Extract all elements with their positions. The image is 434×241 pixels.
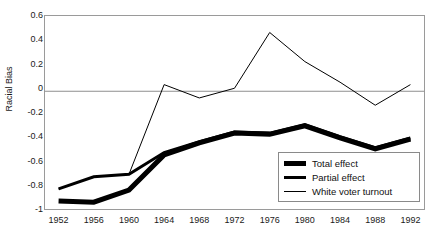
x-tick-label: 1988	[355, 215, 395, 225]
chart-legend: Total effect Partial effect White voter …	[278, 152, 420, 202]
x-tick-label: 1980	[285, 215, 325, 225]
x-tick-label: 1984	[320, 215, 360, 225]
legend-label: White voter turnout	[312, 186, 392, 197]
chart-figure: Racial Bias 0.60.40.20-0.2-0.4-0.6-0.8-1…	[0, 0, 434, 241]
legend-item-white-voter-turnout: White voter turnout	[284, 184, 419, 198]
x-axis-tick-labels: 1952195619601964196819721976198019841988…	[0, 0, 434, 241]
legend-item-partial-effect: Partial effect	[284, 170, 419, 184]
legend-label: Partial effect	[312, 172, 365, 183]
x-tick-label: 1976	[250, 215, 290, 225]
legend-swatch-thin-line-icon	[284, 191, 306, 192]
x-tick-label: 1968	[179, 215, 219, 225]
legend-item-total-effect: Total effect	[284, 156, 419, 170]
x-tick-label: 1992	[390, 215, 430, 225]
x-tick-label: 1956	[74, 215, 114, 225]
x-tick-label: 1964	[144, 215, 184, 225]
x-tick-label: 1960	[109, 215, 149, 225]
legend-swatch-thick-line-icon	[284, 161, 306, 166]
legend-label: Total effect	[312, 158, 358, 169]
x-tick-label: 1972	[215, 215, 255, 225]
x-tick-label: 1952	[39, 215, 79, 225]
legend-swatch-medium-line-icon	[284, 176, 306, 179]
